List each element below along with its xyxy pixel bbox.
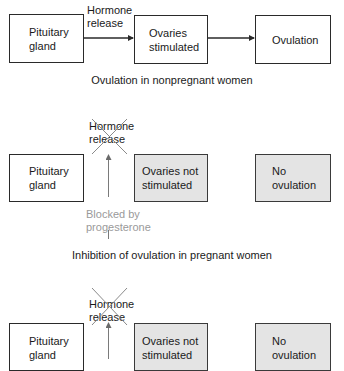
box-label: No ovulation (272, 164, 316, 192)
box-label: Pituitary gland (29, 334, 69, 362)
box-pituitary-gland: Pituitary gland (9, 154, 84, 202)
caption-pregnant-inhibition: Inhibition of ovulation in pregnant wome… (0, 249, 344, 262)
arrow-label-hormone-release: Hormone release (87, 4, 132, 30)
box-no-ovulation: No ovulation (255, 323, 331, 371)
box-label: Ovulation (272, 33, 318, 47)
crossed-label-hormone-release: Hormone release (89, 298, 134, 324)
caption-nonpregnant: Ovulation in nonpregnant women (0, 74, 344, 87)
box-label: Pituitary gland (29, 164, 69, 192)
box-label: Pituitary gland (29, 25, 69, 53)
box-ovaries-not-stimulated: Ovaries not stimulated (134, 154, 208, 202)
blocker-label-progesterone: Blocked by progesterone (86, 208, 151, 234)
box-ovulation: Ovulation (255, 15, 331, 64)
crossed-label-hormone-release: Hormone release (89, 120, 134, 146)
box-label: Ovaries stimulated (149, 26, 199, 54)
box-ovaries-stimulated: Ovaries stimulated (134, 15, 208, 64)
box-label: No ovulation (272, 334, 316, 362)
box-label: Ovaries not stimulated (142, 164, 198, 192)
box-no-ovulation: No ovulation (255, 154, 331, 202)
box-ovaries-not-stimulated: Ovaries not stimulated (134, 323, 208, 371)
box-pituitary-gland: Pituitary gland (9, 14, 84, 63)
box-label: Ovaries not stimulated (142, 334, 198, 362)
box-pituitary-gland: Pituitary gland (9, 323, 84, 371)
